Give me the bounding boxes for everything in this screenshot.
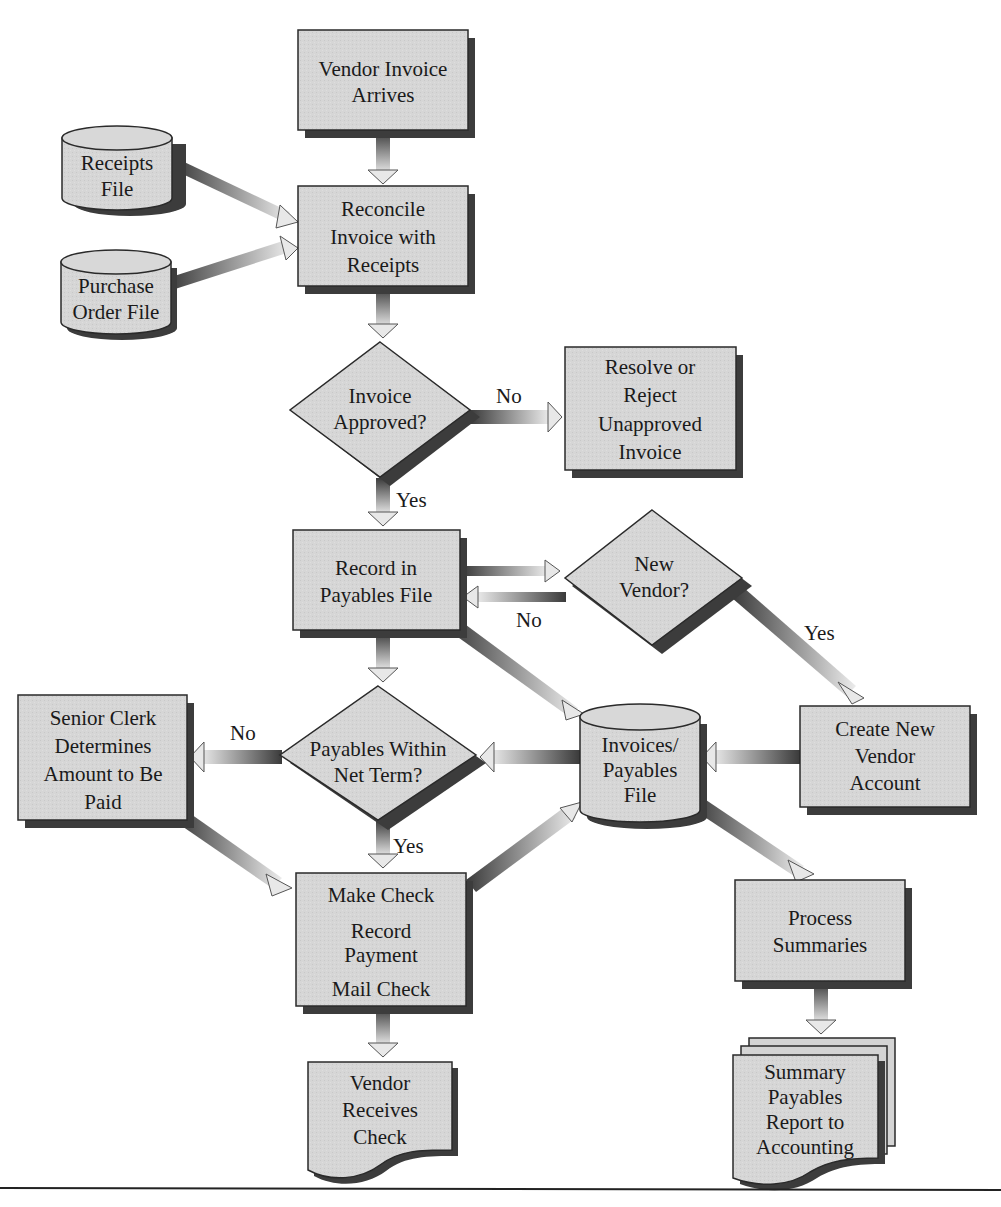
svg-text:Reject: Reject — [623, 383, 677, 407]
svg-text:Receives: Receives — [342, 1098, 418, 1122]
arrow-record-to-net-term — [368, 632, 398, 682]
node-invoices-payables-file: Invoices/ Payables File — [580, 704, 707, 829]
arrow-make-check-to-invoices-file — [466, 802, 582, 892]
svg-text:Report to: Report to — [766, 1110, 845, 1134]
arrow-record-to-invoices-file — [448, 622, 584, 720]
svg-text:Payment: Payment — [344, 943, 418, 967]
node-purchase-order-file: Purchase Order File — [61, 250, 177, 340]
svg-text:Payables: Payables — [768, 1085, 843, 1109]
node-make-check: Make Check Record Payment Mail Check — [296, 873, 473, 1014]
arrow-receipts-to-reconcile — [174, 160, 298, 228]
edge-label-net-term-yes: Yes — [393, 834, 424, 858]
svg-text:Record in: Record in — [335, 556, 418, 580]
node-invoice-approved: Invoice Approved? — [290, 342, 480, 486]
svg-text:Senior Clerk: Senior Clerk — [50, 706, 157, 730]
flowchart-canvas: No Yes No Yes No Yes Vendor Invoice Arri… — [0, 0, 1001, 1207]
svg-text:Invoices/: Invoices/ — [602, 733, 679, 757]
node-payables-within-net-term: Payables Within Net Term? — [280, 686, 486, 830]
svg-text:Check: Check — [353, 1125, 407, 1149]
bottom-rule — [0, 1188, 1001, 1190]
edge-label-new-vendor-yes: Yes — [804, 621, 835, 645]
svg-text:Vendor Invoice: Vendor Invoice — [319, 57, 448, 81]
svg-text:Summary: Summary — [764, 1060, 846, 1084]
svg-text:Invoice: Invoice — [619, 440, 682, 464]
arrow-make-check-to-vendor-receives — [368, 1007, 398, 1057]
node-vendor-invoice-arrives: Vendor Invoice Arrives — [298, 30, 475, 138]
svg-text:Process: Process — [788, 906, 852, 930]
svg-text:Summaries: Summaries — [773, 933, 868, 957]
node-process-summaries: Process Summaries — [735, 880, 912, 989]
svg-text:Accounting: Accounting — [756, 1135, 854, 1159]
svg-text:Approved?: Approved? — [333, 410, 426, 434]
arrow-po-to-reconcile — [168, 236, 298, 290]
svg-text:New: New — [634, 552, 674, 576]
node-reconcile: Reconcile Invoice with Receipts — [298, 186, 475, 294]
node-record-payables: Record in Payables File — [293, 530, 467, 638]
node-create-new-vendor: Create New Vendor Account — [800, 706, 977, 815]
svg-text:Vendor: Vendor — [855, 744, 916, 768]
svg-text:Create New: Create New — [835, 717, 936, 741]
svg-text:Invoice: Invoice — [349, 384, 412, 408]
svg-text:Receipts: Receipts — [347, 253, 419, 277]
svg-text:Record: Record — [351, 919, 412, 943]
arrow-new-vendor-no-to-record — [463, 586, 566, 608]
arrow-record-to-new-vendor — [462, 560, 560, 582]
svg-text:Vendor?: Vendor? — [619, 578, 689, 602]
svg-text:Unapproved: Unapproved — [598, 412, 702, 436]
svg-text:Reconcile: Reconcile — [341, 197, 425, 221]
svg-text:Purchase: Purchase — [78, 274, 154, 298]
svg-text:Paid: Paid — [84, 790, 122, 814]
arrow-reconcile-to-approved — [368, 287, 398, 338]
arrow-create-to-invoices-file — [702, 742, 800, 772]
svg-text:Determines: Determines — [55, 734, 152, 758]
arrow-approved-yes-to-record — [368, 478, 398, 526]
svg-text:Resolve or: Resolve or — [605, 355, 695, 379]
svg-text:Arrives: Arrives — [352, 83, 415, 107]
arrow-process-summaries-to-report — [806, 982, 836, 1034]
svg-text:Payables Within: Payables Within — [309, 737, 447, 761]
svg-text:Mail Check: Mail Check — [332, 977, 431, 1001]
node-resolve-reject: Resolve or Reject Unapproved Invoice — [565, 347, 743, 478]
svg-text:Amount to Be: Amount to Be — [44, 762, 163, 786]
node-vendor-receives-check: Vendor Receives Check — [308, 1062, 458, 1184]
node-receipts-file: Receipts File — [62, 126, 186, 216]
svg-text:Order File: Order File — [73, 300, 160, 324]
arrow-new-vendor-yes-to-create — [732, 588, 864, 704]
edge-label-approved-yes: Yes — [396, 488, 427, 512]
svg-text:Payables: Payables — [603, 758, 678, 782]
arrow-invoice-to-reconcile — [368, 131, 398, 184]
svg-text:Receipts: Receipts — [81, 151, 153, 175]
arrow-net-term-no-to-senior-clerk — [190, 742, 282, 772]
edge-label-new-vendor-no: No — [516, 608, 542, 632]
edge-label-net-term-no: No — [230, 721, 256, 745]
arrow-invoices-file-to-process-summaries — [694, 800, 814, 882]
node-summary-report: Summary Payables Report to Accounting — [733, 1038, 895, 1190]
svg-text:Net Term?: Net Term? — [334, 763, 423, 787]
svg-text:Invoice with: Invoice with — [330, 225, 436, 249]
node-new-vendor: New Vendor? — [565, 510, 752, 654]
edge-label-approved-no: No — [496, 384, 522, 408]
node-senior-clerk: Senior Clerk Determines Amount to Be Pai… — [18, 695, 194, 828]
svg-text:File: File — [624, 783, 657, 807]
svg-text:Payables File: Payables File — [320, 583, 433, 607]
arrow-invoices-file-to-net-term — [480, 742, 580, 772]
svg-text:Make Check: Make Check — [328, 883, 435, 907]
svg-text:Vendor: Vendor — [350, 1071, 411, 1095]
svg-text:Account: Account — [849, 771, 920, 795]
svg-text:File: File — [101, 177, 134, 201]
